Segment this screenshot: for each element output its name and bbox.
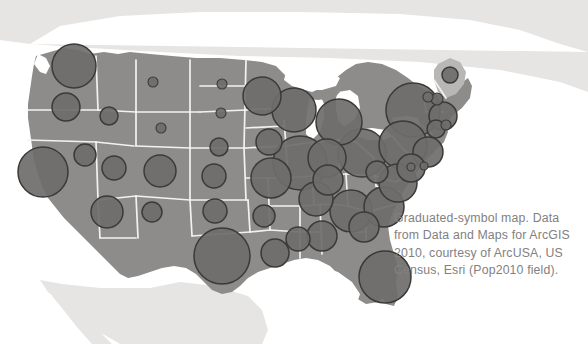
graduated-symbol: Rhode Island [441,120,451,130]
graduated-symbol: Louisiana [261,239,289,267]
graduated-symbol: California [18,147,68,197]
graduated-symbol: Oregon [52,93,80,121]
graduated-symbol: West Virginia [366,161,388,183]
graduated-symbol: Delaware [420,162,428,170]
graduated-symbol: Montana [148,77,158,87]
graduated-symbol: Oklahoma [203,199,227,223]
graduated-symbol-map-figure: TexasIllinoisNew YorkFloridaCaliforniaOh… [0,0,588,344]
graduated-symbol: District of Columbia [407,163,415,171]
graduated-symbol: Arkansas [253,205,275,227]
graduated-symbol: South Dakota [216,108,226,118]
graduated-symbol: Texas [194,228,250,284]
figure-caption: Graduated-symbol map. Data from Data and… [394,210,580,280]
graduated-symbol: Mississippi [286,227,310,251]
graduated-symbol: Colorado [144,155,176,187]
graduated-symbol: Minnesota [243,77,281,115]
graduated-symbol: Utah [102,156,126,180]
graduated-symbol: Michigan [316,99,362,145]
graduated-symbol: North Dakota [217,79,227,89]
graduated-symbol: Missouri [251,158,291,198]
graduated-symbol: Maine [442,67,458,83]
graduated-symbol: Wyoming [156,123,166,133]
us-map: TexasIllinoisNew YorkFloridaCaliforniaOh… [0,0,588,344]
graduated-symbol: Kansas [202,164,226,188]
graduated-symbol: South Carolina [349,212,379,242]
graduated-symbol: Alabama [307,221,337,251]
graduated-symbol: Iowa [256,129,282,155]
graduated-symbol: Idaho [100,107,118,125]
graduated-symbol: Arizona [91,196,123,228]
graduated-symbol: Vermont [423,92,433,102]
graduated-symbol: Kentucky [313,165,343,195]
graduated-symbol: New Mexico [142,202,162,222]
graduated-symbol: Nebraska [210,138,228,156]
graduated-symbol: Washington [52,44,96,88]
graduated-symbol: Nevada [74,144,96,166]
